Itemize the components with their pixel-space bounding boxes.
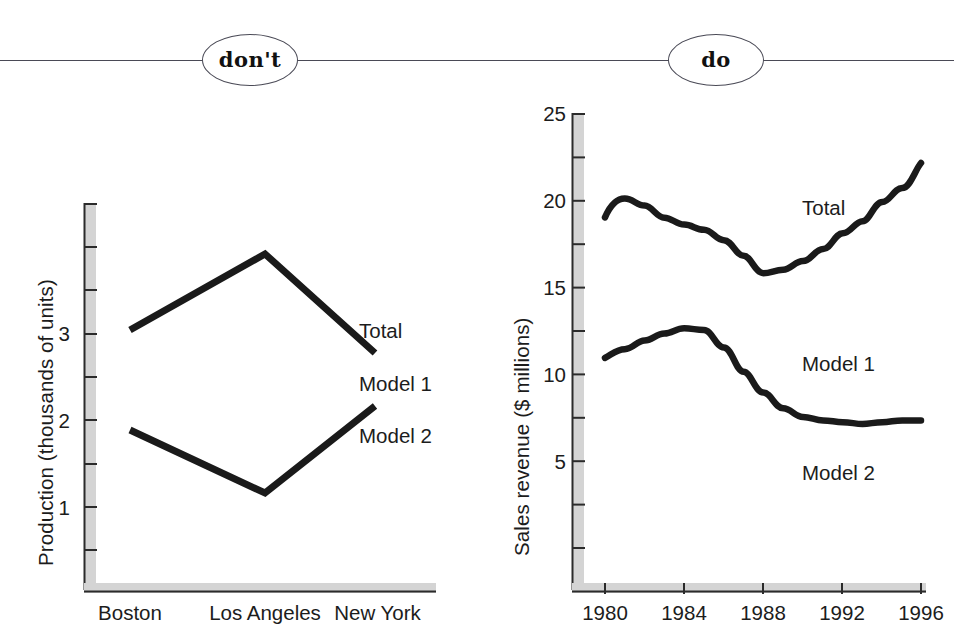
- do-series-label-model-2: Model 2: [802, 461, 875, 485]
- do-y-tick-label-15: 15: [520, 276, 566, 300]
- do-series-line-total: [605, 163, 921, 273]
- dont-chart-plot: [0, 0, 480, 643]
- do-y-tick-label-20: 20: [520, 189, 566, 213]
- do-series-line-model2: [605, 328, 921, 424]
- do-x-tick-label-1980: 1980: [564, 601, 646, 625]
- do-y-tick-label-10: 10: [520, 363, 566, 387]
- do-chart: Sales revenue ($ millions) 25 20 15 10 5…: [474, 0, 954, 643]
- do-x-tick-label-1988: 1988: [722, 601, 804, 625]
- do-series-label-model-1: Model 1: [802, 352, 875, 376]
- dont-series-line-model2: [130, 406, 375, 493]
- do-y-axis-title: Sales revenue ($ millions): [510, 318, 534, 556]
- do-y-tick-label-5: 5: [520, 450, 566, 474]
- do-y-axis-band: [572, 113, 584, 583]
- dont-y-tick-label-2: 2: [38, 409, 70, 433]
- do-series-label-total: Total: [802, 196, 845, 220]
- do-x-tick-label-1996: 1996: [880, 601, 954, 625]
- dont-y-tick-label-3: 3: [38, 322, 70, 346]
- do-chart-plot: [474, 0, 954, 643]
- dont-x-category-los-angeles: Los Angeles: [195, 601, 335, 625]
- dont-y-axis-band: [84, 203, 96, 583]
- dont-chart: Production (thousands of units) 3 2 1 Bo…: [0, 0, 480, 643]
- dont-y-tick-label-1: 1: [38, 496, 70, 520]
- dont-series-line-total: [130, 254, 375, 353]
- do-y-tick-label-25: 25: [520, 102, 566, 126]
- do-x-tick-label-1992: 1992: [801, 601, 883, 625]
- dont-series-label-total: Total: [359, 319, 402, 343]
- dont-x-category-new-york: New York: [315, 601, 440, 625]
- dont-series-label-model-2: Model 2: [359, 424, 432, 448]
- dont-x-category-boston: Boston: [70, 601, 190, 625]
- dont-series-label-model-1: Model 1: [359, 372, 432, 396]
- do-x-tick-label-1984: 1984: [643, 601, 725, 625]
